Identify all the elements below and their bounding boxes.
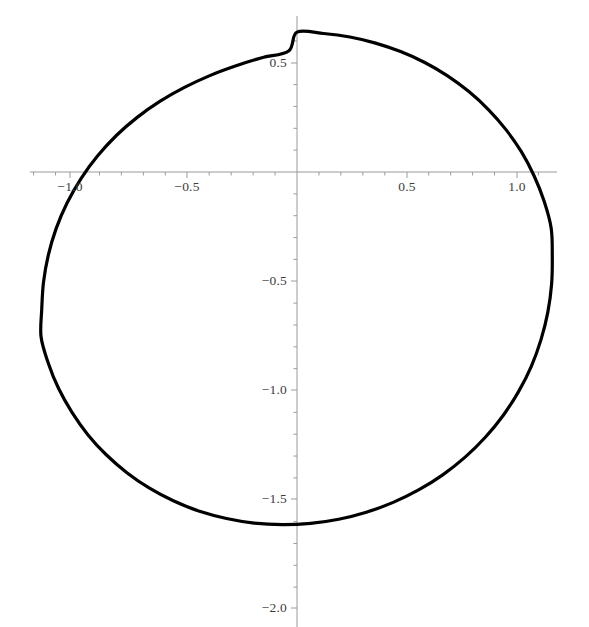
curve-group [41,31,553,525]
y-tick-label: 0.5 [270,56,287,70]
axes-group [30,16,557,627]
y-tick-label: −2.0 [262,601,287,615]
x-tick-label: 0.5 [398,180,415,194]
x-tick-label: −1.0 [57,180,82,194]
plot-figure: −1.0−0.50.51.0 0.5−0.5−1.0−1.5−2.0 [0,0,589,627]
x-tick-label: −0.5 [174,180,199,194]
plot-curve [41,31,553,525]
y-tick-label: −1.5 [262,492,287,506]
y-tick-label: −0.5 [262,274,287,288]
x-tick-label: 1.0 [508,180,525,194]
y-tick-label: −1.0 [262,383,287,397]
plot-canvas [0,0,589,627]
